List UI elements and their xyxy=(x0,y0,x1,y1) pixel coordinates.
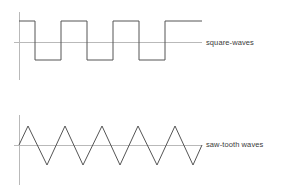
waveform-canvas xyxy=(0,0,286,194)
waveform-diagram: square-waves saw-tooth waves xyxy=(0,0,286,194)
square-wave-trace xyxy=(19,21,202,60)
square-wave-panel xyxy=(14,12,202,80)
sawtooth-wave-panel xyxy=(14,115,202,185)
sawtooth-wave-label: saw-tooth waves xyxy=(206,140,263,149)
square-wave-label: square-waves xyxy=(206,38,254,47)
